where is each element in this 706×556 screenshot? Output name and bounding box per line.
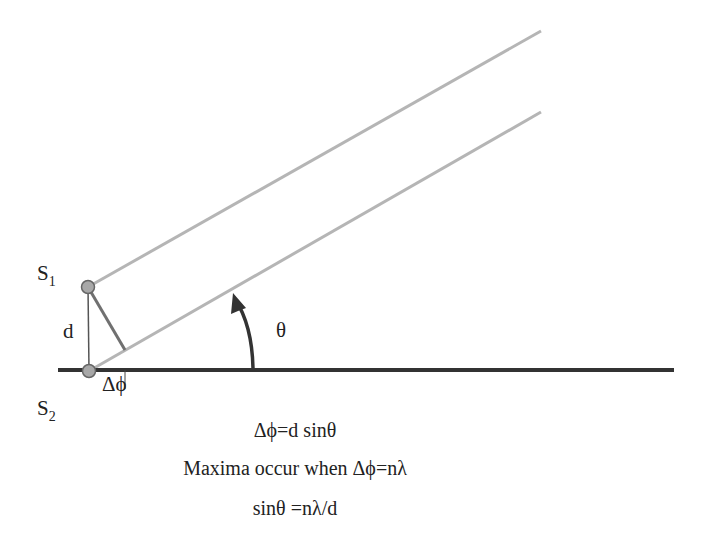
perpendicular-line: [88, 287, 125, 350]
label-theta: θ: [276, 320, 286, 341]
source-s1-icon: [82, 281, 95, 294]
source-s2-icon: [83, 365, 96, 378]
arrowhead-icon: [231, 293, 246, 314]
label-s1-main: S: [37, 261, 49, 285]
label-d: d: [63, 321, 74, 342]
equation-maxima-condition: Maxima occur when Δϕ=nλ: [0, 458, 590, 478]
equation-path-difference: Δϕ=d sinθ: [0, 420, 590, 440]
label-s2-main: S: [37, 396, 49, 420]
label-s1-sub: 1: [49, 274, 56, 289]
equation-sin-theta: sinθ =nλ/d: [0, 498, 590, 518]
label-s1: S1: [37, 263, 56, 289]
separation-line: [88, 287, 89, 371]
label-delta-phi: Δϕ: [102, 374, 127, 395]
ray-from-s1: [88, 31, 541, 287]
ray-from-s2: [89, 112, 541, 371]
